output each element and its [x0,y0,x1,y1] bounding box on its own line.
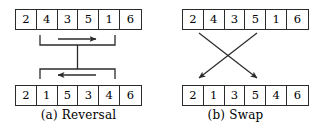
array-cell: 1 [266,10,287,29]
array-cell: 2 [16,86,37,105]
array-cell: 2 [183,86,204,105]
array-cell: 5 [78,10,99,29]
caption-tag: (a) [41,108,58,122]
swap-operation-diagram [157,30,314,85]
lower-bracket [40,69,115,79]
array-cell: 3 [225,10,246,29]
array-cell: 6 [120,86,141,105]
upper-bracket [40,35,115,45]
array-cell: 4 [266,86,287,105]
reversal-input-array: 2 4 3 5 1 6 [15,9,142,30]
reversal-bracket-svg [0,30,157,85]
array-cell: 1 [99,10,120,29]
array-cell: 6 [287,86,308,105]
panel-swap: 2 4 3 5 1 6 [157,0,314,130]
array-cell: 3 [78,86,99,105]
caption-reversal: (a)Reversal [0,108,157,122]
array-cell: 4 [204,10,225,29]
array-cell: 3 [58,10,79,29]
array-cell: 5 [245,10,266,29]
array-cell: 5 [58,86,79,105]
caption-label: Swap [229,108,263,122]
swap-input-array: 2 4 3 5 1 6 [182,9,309,30]
array-cell: 4 [37,10,58,29]
swap-output-array: 2 1 3 5 4 6 [182,85,309,106]
panel-reversal: 2 4 3 5 1 6 [0,0,157,130]
array-cell: 6 [120,10,141,29]
array-cell: 4 [99,86,120,105]
array-cell: 1 [204,86,225,105]
caption-swap: (b)Swap [157,108,314,122]
figure-container: 2 4 3 5 1 6 [0,0,314,130]
caption-label: Reversal [62,108,117,122]
reversal-operation-diagram [0,30,157,85]
array-cell: 6 [287,10,308,29]
swap-cross-svg [157,30,314,85]
array-cell: 1 [37,86,58,105]
array-cell: 3 [225,86,246,105]
array-cell: 2 [16,10,37,29]
array-cell: 2 [183,10,204,29]
array-cell: 5 [245,86,266,105]
caption-tag: (b) [208,108,226,122]
reversal-output-array: 2 1 5 3 4 6 [15,85,142,106]
